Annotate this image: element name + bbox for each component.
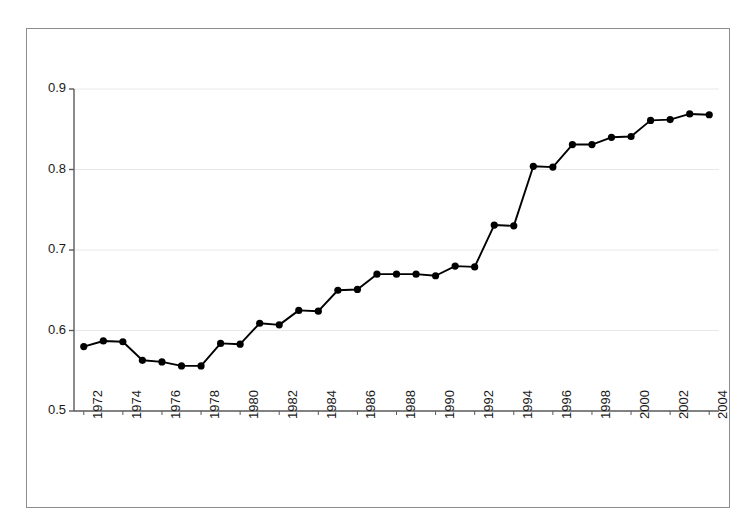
x-tick-label: 2000 <box>637 390 652 419</box>
data-point-marker <box>197 362 204 369</box>
data-point-marker <box>588 141 595 148</box>
data-point-marker <box>549 163 556 170</box>
data-point-marker <box>627 133 634 140</box>
y-tick-label: 0.9 <box>29 80 66 95</box>
data-point-marker <box>452 263 459 270</box>
data-point-marker <box>354 286 361 293</box>
x-tick-label: 2002 <box>676 390 691 419</box>
data-point-marker <box>256 320 263 327</box>
x-tick-label: 1988 <box>403 390 418 419</box>
data-point-marker <box>569 141 576 148</box>
data-point-marker <box>295 307 302 314</box>
x-tick-label: 1984 <box>324 390 339 419</box>
x-tick-label: 1996 <box>559 390 574 419</box>
figure-canvas: 0.50.60.70.80.9 197219741976197819801982… <box>0 0 750 532</box>
data-point-marker <box>334 287 341 294</box>
y-tick-label: 0.7 <box>29 241 66 256</box>
data-point-marker <box>647 117 654 124</box>
x-tick-label: 1978 <box>207 390 222 419</box>
data-point-marker <box>158 358 165 365</box>
x-tick-label: 1982 <box>285 390 300 419</box>
data-point-marker <box>471 263 478 270</box>
x-tick-label: 1976 <box>168 390 183 419</box>
gridlines-group <box>74 89 719 331</box>
data-point-marker <box>393 271 400 278</box>
x-tick-label: 2004 <box>715 390 730 419</box>
data-point-marker <box>237 341 244 348</box>
y-tick-label: 0.6 <box>29 322 66 337</box>
x-tick-label: 1994 <box>520 390 535 419</box>
data-point-marker <box>510 222 517 229</box>
data-point-marker <box>706 111 713 118</box>
x-tick-label: 1980 <box>246 390 261 419</box>
data-point-marker <box>100 337 107 344</box>
data-point-marker <box>530 163 537 170</box>
data-point-marker <box>217 340 224 347</box>
x-tick-label: 1972 <box>90 390 105 419</box>
x-tick-label: 1992 <box>481 390 496 419</box>
data-point-marker <box>373 271 380 278</box>
x-tick-label: 1998 <box>598 390 613 419</box>
data-point-marker <box>139 357 146 364</box>
data-point-marker <box>119 338 126 345</box>
line-chart <box>27 29 729 507</box>
x-tick-label: 1986 <box>363 390 378 419</box>
y-tick-label: 0.8 <box>29 161 66 176</box>
data-point-marker <box>80 343 87 350</box>
data-series-group <box>84 114 709 366</box>
data-point-marker <box>608 134 615 141</box>
data-point-marker <box>276 321 283 328</box>
data-point-marker <box>667 116 674 123</box>
data-point-marker <box>178 362 185 369</box>
chart-frame-border: 0.50.60.70.80.9 197219741976197819801982… <box>26 28 730 508</box>
data-line-series-1 <box>84 114 709 366</box>
y-tick-label: 0.5 <box>29 402 66 417</box>
data-point-marker <box>686 110 693 117</box>
x-tick-label: 1974 <box>129 390 144 419</box>
data-point-marker <box>315 308 322 315</box>
x-tick-label: 1990 <box>442 390 457 419</box>
data-point-marker <box>432 272 439 279</box>
data-point-marker <box>491 221 498 228</box>
data-point-marker <box>412 271 419 278</box>
